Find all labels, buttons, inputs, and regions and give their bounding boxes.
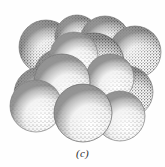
sphere-f2 <box>54 84 112 142</box>
sphere-packing-illustration <box>0 0 165 148</box>
figure-container: (c) <box>0 0 165 167</box>
sphere-f4 <box>10 80 62 132</box>
sphere-packing-svg <box>0 0 165 148</box>
figure-caption: (c) <box>0 146 165 160</box>
